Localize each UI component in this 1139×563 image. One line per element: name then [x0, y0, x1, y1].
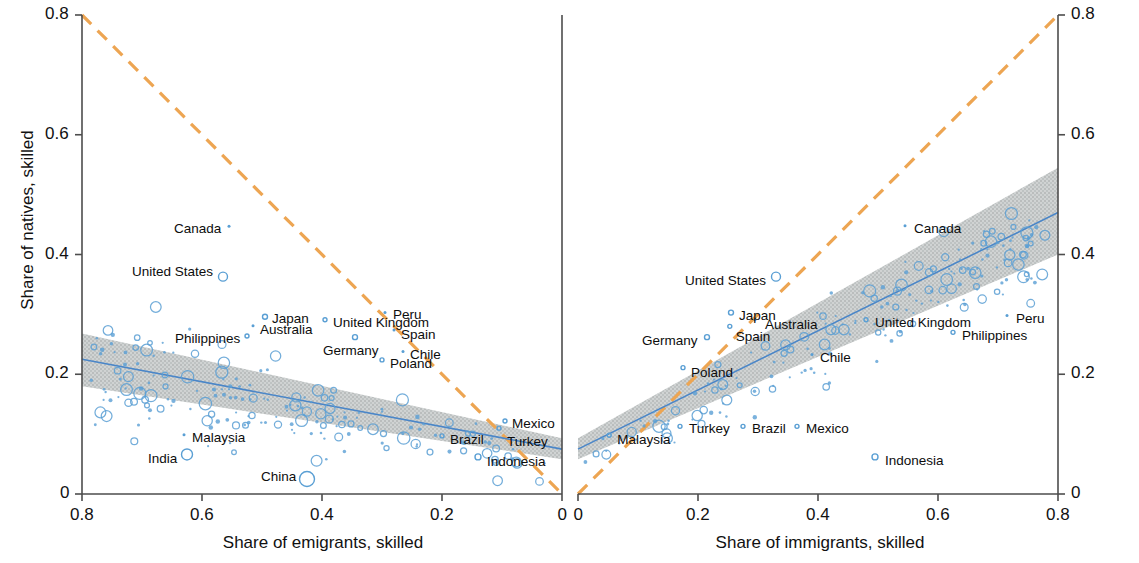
point-label-peru: Peru [1016, 311, 1045, 326]
data-point-brazil [741, 424, 745, 428]
data-point-united-states [219, 272, 228, 281]
point-label-germany: Germany [323, 343, 379, 358]
point-label-united-states: United States [132, 264, 213, 279]
data-point-spain [728, 324, 732, 328]
point-label-china: China [261, 469, 296, 484]
point-label-philippines: Philippines [962, 328, 1027, 343]
point-label-indonesia: Indonesia [885, 453, 944, 468]
point-label-mexico: Mexico [806, 421, 849, 436]
tick-label: 0.4 [1071, 244, 1095, 264]
confidence-band-layer [82, 168, 1058, 460]
data-point-china [300, 472, 315, 487]
point-label-indonesia: Indonesia [487, 454, 546, 469]
point-label-canada: Canada [914, 221, 961, 236]
point-label-chile: Chile [820, 350, 851, 365]
point-label-mexico: Mexico [512, 416, 555, 431]
tick-label: 0.2 [45, 363, 69, 383]
data-point-india [182, 449, 193, 460]
data-point-indonesia [872, 454, 878, 460]
tick-label: 0.6 [45, 124, 69, 144]
tick-label: 0.6 [190, 505, 214, 525]
point-label-germany: Germany [642, 333, 698, 348]
tick-label: 0.4 [45, 244, 69, 264]
data-point-mexico [795, 424, 799, 428]
tick-label: 0.2 [686, 505, 710, 525]
point-label-united-states: United States [685, 273, 766, 288]
data-point-united-kingdom [323, 318, 327, 322]
point-label-malaysia: Malaysia [617, 432, 670, 447]
point-label-peru: Peru [393, 307, 422, 322]
point-label-india: India [148, 451, 177, 466]
figure-container: Share of natives, skilled Share of nativ… [0, 0, 1139, 563]
x-axis-label-right: Share of immigrants, skilled [640, 533, 1000, 553]
point-label-turkey: Turkey [507, 434, 548, 449]
data-point-poland [681, 366, 685, 370]
tick-label: 0.4 [806, 505, 830, 525]
data-point-chile [402, 350, 405, 353]
tick-label: 0 [574, 505, 583, 525]
data-point-peru [1006, 314, 1009, 317]
tick-label: 0.8 [1046, 505, 1070, 525]
tick-label: 0.2 [430, 505, 454, 525]
data-point-philippines [951, 330, 955, 334]
point-label-philippines: Philippines [175, 331, 240, 346]
point-label-spain: Spain [401, 327, 436, 342]
point-label-united-kingdom: United Kingdom [875, 315, 971, 330]
tick-label: 0 [60, 483, 69, 503]
tick-label: 0.2 [1071, 363, 1095, 383]
data-point-poland [380, 358, 384, 362]
point-label-brazil: Brazil [450, 432, 484, 447]
point-label-poland: Poland [691, 365, 733, 380]
point-label-australia: Australia [765, 317, 818, 332]
tick-label: 0 [1071, 483, 1080, 503]
data-point-turkey [678, 424, 682, 428]
point-label-malaysia: Malaysia [192, 430, 245, 445]
tick-label: 0.8 [1071, 4, 1095, 24]
point-label-canada: Canada [174, 221, 221, 236]
point-label-turkey: Turkey [689, 421, 730, 436]
tick-label: 0.6 [1071, 124, 1095, 144]
data-point-germany [705, 335, 710, 340]
data-point-japan [263, 314, 268, 319]
data-point-canada [228, 225, 231, 228]
data-point-mexico [503, 419, 507, 423]
data-point-canada [904, 224, 907, 227]
tick-label: 0.8 [45, 4, 69, 24]
point-label-spain: Spain [736, 329, 771, 344]
data-point-malaysia [183, 433, 186, 436]
point-label-brazil: Brazil [752, 421, 786, 436]
data-point-japan [729, 310, 734, 315]
tick-label: 0 [558, 505, 567, 525]
data-point-peru [384, 311, 387, 314]
y-axis-label-left: Share of natives, skilled [18, 120, 38, 320]
data-point-chile [811, 353, 814, 356]
tick-label: 0.6 [926, 505, 950, 525]
tick-label: 0.8 [70, 505, 94, 525]
tick-label: 0.4 [310, 505, 334, 525]
data-point-united-states [772, 272, 781, 281]
data-point-indonesia [475, 454, 481, 460]
data-point-germany [353, 335, 358, 340]
data-point-australia [252, 324, 255, 327]
data-point-philippines [245, 334, 249, 338]
scatter-plot-svg [0, 0, 1139, 563]
point-label-poland: Poland [390, 356, 432, 371]
point-label-australia: Australia [260, 322, 313, 337]
x-axis-label-left: Share of emigrants, skilled [143, 533, 503, 553]
